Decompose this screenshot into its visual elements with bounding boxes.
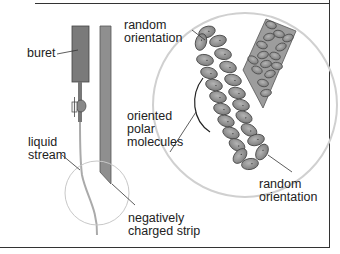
label-random-bottom-2: orientation: [259, 191, 317, 204]
buret: [72, 26, 89, 122]
label-charged-strip: charged strip: [128, 225, 200, 238]
magnifier-small-circle: [65, 161, 129, 225]
liquid-stream: [80, 122, 97, 235]
stopcock-icon: [76, 100, 86, 112]
random-orientation-inset: [243, 19, 296, 108]
negatively-charged-strip: [100, 26, 111, 184]
label-molecules: molecules: [127, 136, 183, 149]
label-buret: buret: [27, 47, 56, 60]
label-stream: stream: [28, 149, 66, 162]
label-random-top-2: orientation: [124, 32, 182, 45]
